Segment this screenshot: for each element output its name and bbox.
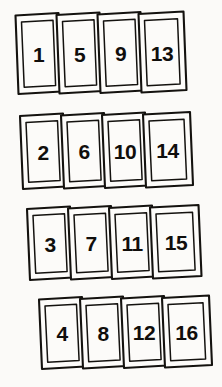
card-row-4: 4 8 12 16 [39,296,212,370]
card-15-label: 15 [165,231,188,254]
card-9[interactable]: 9 [98,12,144,93]
card-14-label: 14 [156,139,179,162]
card-6[interactable]: 6 [61,113,107,189]
card-5[interactable]: 5 [57,13,103,94]
card-10[interactable]: 10 [102,113,148,189]
card-1[interactable]: 1 [16,13,62,94]
card-2[interactable]: 2 [20,114,66,190]
card-row-1: 1 5 9 13 [16,12,187,95]
card-8-label: 8 [97,322,109,345]
card-7[interactable]: 7 [68,206,114,280]
card-4[interactable]: 4 [39,297,85,369]
cards-diagram: 1 5 9 13 2 [0,0,222,387]
card-4-label: 4 [56,322,68,345]
card-13-label: 13 [151,42,173,65]
card-11[interactable]: 11 [109,206,155,280]
card-row-3: 3 7 11 15 [27,205,202,280]
card-10-label: 10 [114,140,136,163]
diagram-canvas: 1 5 9 13 2 [0,0,222,387]
card-row-2: 2 6 10 14 [20,112,193,189]
card-12[interactable]: 12 [121,296,167,368]
card-12-label: 12 [133,321,155,344]
card-5-label: 5 [74,43,86,66]
card-3-label: 3 [44,233,55,256]
card-2-label: 2 [37,141,48,164]
card-8[interactable]: 8 [80,297,126,369]
card-7-label: 7 [85,232,96,255]
card-3[interactable]: 3 [27,207,73,281]
card-16[interactable]: 16 [162,296,212,368]
card-15[interactable]: 15 [150,205,202,279]
card-16-label: 16 [175,321,197,344]
card-6-label: 6 [78,140,89,163]
card-13[interactable]: 13 [139,12,187,93]
card-1-label: 1 [33,43,45,66]
card-11-label: 11 [121,232,143,255]
card-14[interactable]: 14 [143,112,193,188]
card-9-label: 9 [115,42,126,65]
